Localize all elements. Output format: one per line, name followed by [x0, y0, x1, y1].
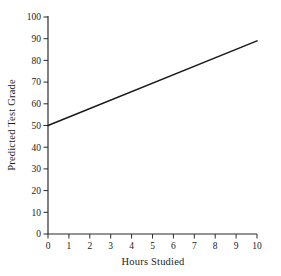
x-tick-label: 10	[252, 241, 262, 251]
chart-svg: 0102030405060708090100012345678910	[0, 0, 281, 276]
axis-spines	[48, 16, 257, 234]
y-tick-label: 90	[32, 34, 42, 44]
y-tick-label: 60	[32, 99, 42, 109]
x-tick-label: 1	[67, 241, 72, 251]
y-tick-label: 70	[32, 77, 42, 87]
y-tick-label: 20	[32, 186, 42, 196]
x-tick-label: 8	[213, 241, 218, 251]
y-tick-label: 30	[32, 164, 42, 174]
x-tick-label: 3	[108, 241, 113, 251]
x-tick-label: 9	[234, 241, 239, 251]
x-tick-label: 2	[87, 241, 92, 251]
x-tick-label: 6	[171, 241, 176, 251]
y-tick-label: 0	[36, 229, 41, 239]
x-axis-title: Hours Studied	[48, 256, 258, 267]
y-axis-title: Predicted Test Grade	[6, 79, 17, 171]
y-tick-label: 40	[32, 143, 42, 153]
y-tick-label: 100	[27, 12, 42, 22]
y-tick-label: 50	[32, 121, 42, 131]
line-chart-figure: 0102030405060708090100012345678910 Hours…	[0, 0, 281, 276]
predicted-grade-regression-line	[48, 41, 257, 126]
x-tick-label: 5	[150, 241, 155, 251]
x-tick-label: 7	[192, 241, 197, 251]
y-tick-label: 80	[32, 56, 42, 66]
x-tick-label: 0	[46, 241, 51, 251]
x-tick-label: 4	[129, 241, 134, 251]
y-tick-label: 10	[32, 208, 42, 218]
